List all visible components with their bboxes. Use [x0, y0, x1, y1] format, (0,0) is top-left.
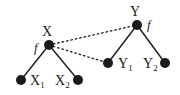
label-y-function: f [147, 17, 153, 32]
label-x-root: X [42, 24, 52, 39]
node-y-root [132, 20, 142, 30]
tree-mapping-diagram: X f X1 X2 Y f Y1 Y2 [0, 0, 180, 95]
label-x1: X1 [30, 73, 45, 90]
label-y2: Y2 [143, 56, 158, 73]
dotted-link-x-to-y1 [49, 45, 108, 63]
node-x2-leaf [73, 75, 83, 85]
label-x-function: f [34, 40, 40, 55]
label-y-root: Y [130, 4, 140, 19]
label-y1: Y1 [118, 56, 133, 73]
node-y2-leaf [160, 58, 170, 68]
node-y1-leaf [103, 58, 113, 68]
node-x-root [44, 40, 54, 50]
node-x1-leaf [16, 75, 26, 85]
label-x2: X2 [55, 73, 70, 90]
